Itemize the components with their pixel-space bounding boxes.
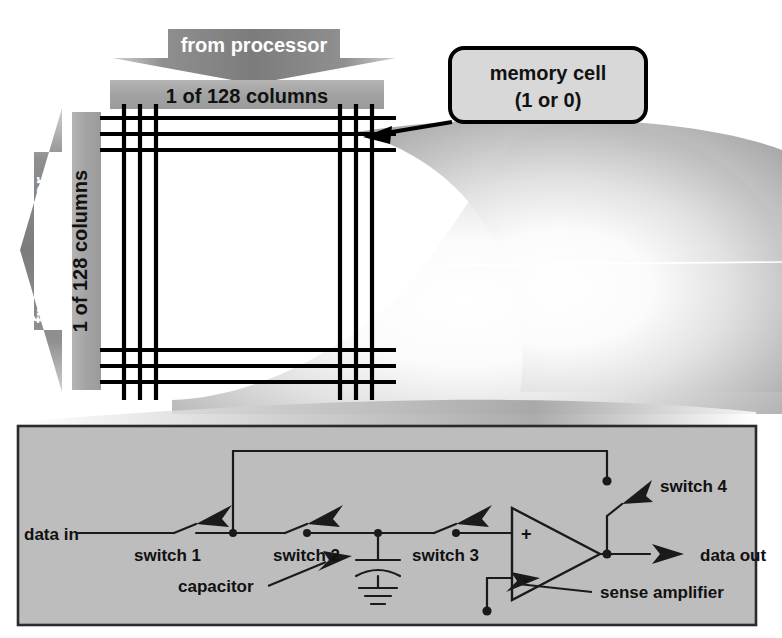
label-data-in: data in — [24, 525, 79, 544]
label-data-out: data out — [700, 546, 766, 565]
node-dot — [374, 529, 382, 537]
node-dot — [303, 529, 311, 537]
node-dot — [602, 476, 611, 485]
node-dot — [229, 529, 237, 537]
label-switch-3: switch 3 — [412, 546, 479, 565]
panel-drop-shadow — [18, 400, 756, 426]
label-switch-4: switch 4 — [660, 477, 728, 496]
node-dot — [602, 549, 611, 558]
label-switch-2: switch 2 — [273, 546, 340, 565]
label-sense-amplifier: sense amplifier — [600, 583, 724, 602]
label-switch-1: switch 1 — [134, 546, 201, 565]
node-dot — [452, 529, 460, 537]
circuit-panel-layer: data in switch 1 switch 2 switch 3 switc… — [0, 0, 782, 638]
diagram-canvas: from processor 1 of 128 columns from pro… — [0, 0, 782, 638]
node-dot — [482, 606, 491, 615]
opamp-plus-sign: + — [521, 524, 532, 544]
opamp-minus-sign: - — [522, 568, 529, 590]
label-capacitor: capacitor — [178, 577, 254, 596]
